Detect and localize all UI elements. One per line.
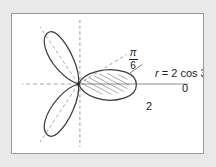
petal-tip-value-label: 2 [146,101,152,112]
figure-panel: r = 2 cos 3θ 0 2 π 6 [11,13,204,154]
equation-label-rest: = 2 cos 3θ [159,67,204,79]
equation-label: r = 2 cos 3θ [155,68,204,79]
angle-numerator: π [127,48,139,59]
angle-denominator: 6 [127,60,139,71]
polar-rose-plot [12,14,203,153]
angle-pi-over-six-label: π 6 [127,48,139,71]
pole-point [77,82,80,85]
right-petal-fill [78,73,129,94]
polar-axis-zero-label: 0 [182,83,188,94]
shaded-right-petal [78,70,136,101]
